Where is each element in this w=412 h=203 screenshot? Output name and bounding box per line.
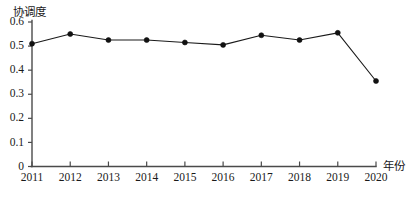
x-axis-tick-labels: 2011201220132014201520162017201820192020 [21, 171, 388, 183]
y-axis-group: 00.10.20.30.40.50.6 协调度 [10, 5, 47, 172]
x-axis-tick-label: 2016 [212, 171, 235, 183]
chart-container: 00.10.20.30.40.50.6 协调度 2011201220132014… [0, 0, 412, 203]
x-axis-tick-label: 2019 [326, 171, 349, 183]
series-line-coordination-degree [32, 33, 376, 81]
data-point [182, 40, 187, 45]
x-axis-group: 2011201220132014201520162017201820192020… [21, 159, 406, 183]
x-axis-tick-label: 2018 [288, 171, 311, 183]
data-point [335, 30, 340, 35]
series-data-points [30, 30, 379, 83]
y-axis-tick-label: 0.1 [10, 136, 25, 148]
data-point [68, 32, 73, 37]
y-axis-tick-label: 0.5 [10, 39, 25, 51]
line-chart: 00.10.20.30.40.50.6 协调度 2011201220132014… [0, 0, 412, 203]
data-point [374, 79, 379, 84]
series-group [30, 30, 379, 83]
y-axis-tick-label: 0.3 [10, 87, 25, 99]
data-point [259, 33, 264, 38]
x-axis-title: 年份 [383, 159, 406, 173]
x-axis-tick-label: 2017 [250, 171, 273, 183]
x-axis-tick-label: 2014 [135, 171, 158, 183]
x-axis-tick-label: 2015 [173, 171, 196, 183]
data-point [297, 38, 302, 43]
x-axis-tick-label: 2013 [97, 171, 120, 183]
data-point [221, 42, 226, 47]
y-axis-tick-labels: 00.10.20.30.40.50.6 [10, 15, 25, 172]
data-point [144, 38, 149, 43]
data-point [106, 38, 111, 43]
data-point [30, 41, 35, 46]
y-axis-tick-label: 0.2 [10, 111, 25, 123]
y-axis-title: 协调度 [13, 5, 47, 19]
x-axis-tick-label: 2012 [59, 171, 82, 183]
x-axis-tick-label: 2011 [21, 171, 44, 183]
y-axis-tick-label: 0.4 [10, 63, 25, 75]
x-axis-tick-marks [32, 162, 376, 167]
